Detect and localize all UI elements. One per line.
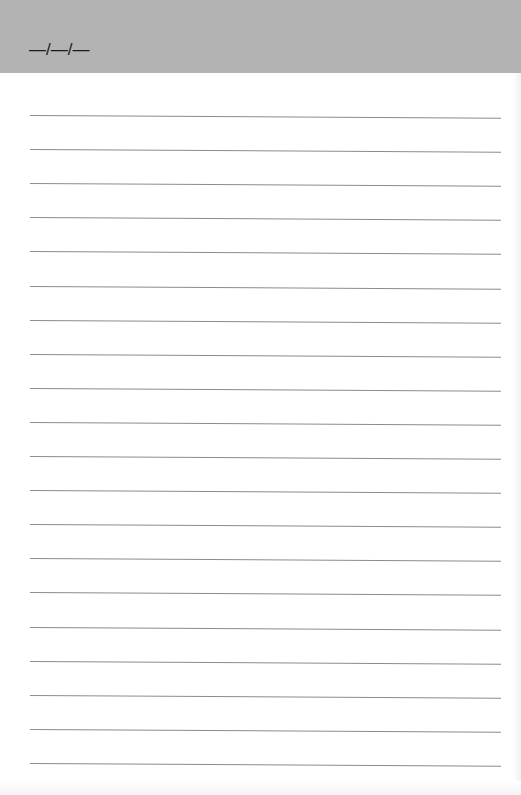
page-bottom-shadow: [0, 781, 521, 795]
lined-page: [0, 73, 521, 795]
page-edge-shadow: [513, 73, 521, 795]
date-placeholder: —/—/—: [29, 40, 89, 60]
header-band: —/—/—: [0, 0, 521, 73]
